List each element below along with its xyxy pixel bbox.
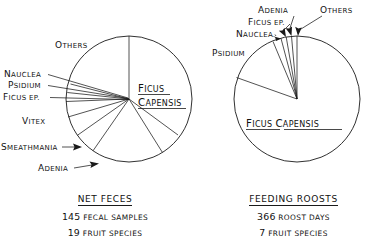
feeding-roosts-species-unit: FRUIT SPECIES: [268, 229, 328, 238]
others-leader-line: [301, 16, 322, 29]
net-feces-pie-chart: FICUS CAPENSIS OTHERS NAUCLEA PSIDIUM: [0, 0, 210, 180]
nauclea-label: NAUCLEA: [236, 29, 273, 39]
feeding-roosts-caption-line-2: 7 FRUIT SPECIES: [210, 227, 377, 238]
smeathmania-label: SMEATHMANIA: [1, 142, 58, 152]
feeding-roosts-caption: FEEDING ROOSTS 366 ROOST DAYS 7 FRUIT SP…: [210, 187, 377, 238]
feeding-roosts-days-unit: ROOST DAYS: [278, 213, 330, 222]
nauclea-leader-line: [275, 35, 276, 37]
net-feces-caption-title: NET FECES: [78, 194, 133, 206]
adenia-arrow-icon: [286, 27, 292, 36]
feeding-roosts-caption-line-1: 366 ROOST DAYS: [210, 211, 377, 222]
ficus-capensis-center-label: FICUS CAPENSIS: [246, 118, 319, 129]
net-feces-caption: NET FECES 145 FECAL SAMPLES 19 FRUIT SPE…: [0, 187, 210, 238]
ficus-ep-label: FICUS EP.: [3, 92, 40, 102]
figure-root: FICUS CAPENSIS OTHERS NAUCLEA PSIDIUM: [0, 0, 377, 246]
feeding-roosts-days-count: 366: [257, 211, 276, 222]
adenia-arrow-icon: [90, 162, 100, 169]
net-feces-species-unit: FRUIT SPECIES: [83, 229, 143, 238]
net-feces-caption-line-2: 19 FRUIT SPECIES: [0, 227, 210, 238]
adenia-label: ADENIA: [38, 163, 68, 173]
others-label: OTHERS: [55, 40, 88, 50]
others-label: OTHERS: [320, 5, 353, 15]
net-feces-sample-unit: FECAL SAMPLES: [83, 213, 148, 222]
net-feces-sample-count: 145: [62, 211, 81, 222]
feeding-roosts-pie-chart: FICUS CAPENSIS OTHERS ADENIA FICUS EP.: [210, 0, 377, 180]
feeding-roosts-caption-title: FEEDING ROOSTS: [249, 194, 337, 206]
others-arrow-icon: [295, 27, 302, 36]
net-feces-species-count: 19: [68, 227, 80, 238]
net-feces-caption-line-1: 145 FECAL SAMPLES: [0, 211, 210, 222]
adenia-leader-line: [74, 165, 92, 168]
nauclea-label: NAUCLEA: [4, 69, 41, 79]
adenia-leader-line: [290, 16, 294, 28]
adenia-label: ADENIA: [258, 5, 288, 15]
ficus-capensis-center-label-line1: FICUS: [138, 83, 165, 94]
psidium-label: PSIDIUM: [212, 48, 245, 58]
ficus-ep-label: FICUS EP.: [248, 17, 285, 27]
feeding-roosts-species-count: 7: [259, 227, 265, 238]
ficus-capensis-center-label-line2: CAPENSIS: [138, 97, 182, 108]
panel-feeding-roosts: FICUS CAPENSIS OTHERS ADENIA FICUS EP.: [210, 0, 377, 246]
vitex-label: VITEX: [22, 116, 45, 126]
panel-net-feces: FICUS CAPENSIS OTHERS NAUCLEA PSIDIUM: [0, 0, 210, 246]
psidium-label: PSIDIUM: [8, 80, 41, 90]
